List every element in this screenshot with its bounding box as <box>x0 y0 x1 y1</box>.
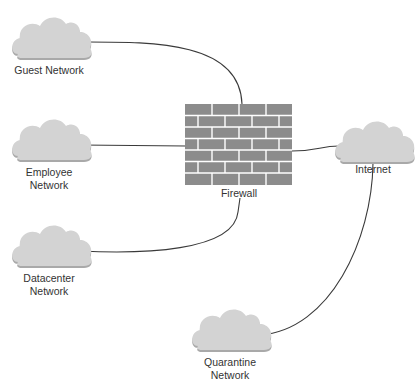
quarantine-network-cloud-icon <box>192 309 271 352</box>
edge-employee-firewall <box>80 145 186 146</box>
quarantine-network-label: Quarantine Network <box>204 356 256 382</box>
datacenter-network-label: Datacenter Network <box>23 272 74 298</box>
label-line: Internet <box>355 163 391 176</box>
label-line: Network <box>23 285 74 298</box>
label-line: Firewall <box>221 187 257 200</box>
edge-datacenter-firewall <box>80 198 240 252</box>
guest-network-cloud-icon <box>12 17 91 60</box>
employee-network-cloud-icon <box>12 119 91 162</box>
datacenter-network-cloud-icon <box>12 225 91 268</box>
edge-firewall-internet <box>292 146 339 151</box>
employee-network-label: Employee Network <box>26 166 73 192</box>
label-line: Employee <box>26 166 73 179</box>
firewall-label: Firewall <box>221 187 257 200</box>
internet-label: Internet <box>355 163 391 176</box>
edge-guest-firewall <box>80 42 242 104</box>
edge-internet-quarantine <box>260 163 373 335</box>
label-line: Guest Network <box>14 64 83 77</box>
label-line: Quarantine <box>204 356 256 369</box>
label-line: Network <box>204 369 256 382</box>
internet-cloud-icon <box>335 121 414 164</box>
label-line: Datacenter <box>23 272 74 285</box>
label-line: Network <box>26 179 73 192</box>
guest-network-label: Guest Network <box>14 64 83 77</box>
firewall-icon <box>185 104 292 185</box>
